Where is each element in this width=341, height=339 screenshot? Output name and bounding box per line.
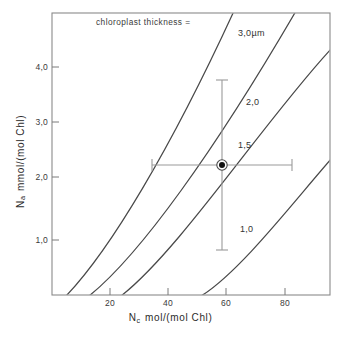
curve-label-1-0: 1,0 <box>240 224 253 234</box>
y-axis-symbol: N <box>15 200 26 208</box>
chart-figure: chloroplast thickness = 3,0µm 2,0 1,5 1,… <box>0 0 341 339</box>
x-axis-subscript: c <box>136 316 140 325</box>
plot-frame <box>52 13 330 295</box>
chart-caption: chloroplast thickness = <box>96 17 191 27</box>
x-axis-title: Ncmol/(mol Chl) <box>0 312 341 325</box>
x-tick-label-80: 80 <box>271 298 299 308</box>
data-point-marker <box>217 160 227 170</box>
curve-label-2-0: 2,0 <box>246 97 259 107</box>
curve-label-1-5: 1,5 <box>238 140 251 150</box>
x-tick-label-60: 60 <box>212 298 240 308</box>
x-tick-label-40: 40 <box>154 298 182 308</box>
x-axis-units: mol/(mol Chl) <box>145 312 212 323</box>
y-axis-units: mmol/(mol Chl) <box>15 115 26 191</box>
x-tick-label-20: 20 <box>96 298 124 308</box>
y-axis-subscript: a <box>18 196 27 200</box>
y-axis-title: Nammol/(mol Chl) <box>15 61 28 261</box>
marker-center-dot <box>219 162 225 168</box>
plot-canvas <box>0 0 341 339</box>
curve-label-3-0um: 3,0µm <box>238 28 265 38</box>
